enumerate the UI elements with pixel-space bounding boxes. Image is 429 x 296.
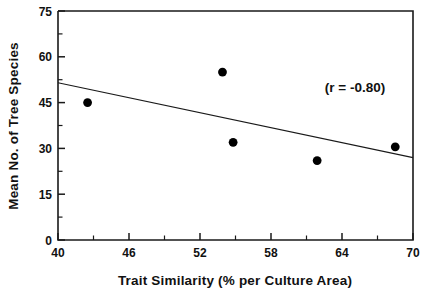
x-axis-title: Trait Similarity (% per Culture Area) <box>118 273 352 288</box>
x-tick-label-58: 58 <box>264 246 278 260</box>
y-tick-label-75: 75 <box>39 5 53 19</box>
x-tick-label-70: 70 <box>406 246 420 260</box>
x-tick-label-64: 64 <box>335 246 349 260</box>
y-tick-label-30: 30 <box>39 142 53 156</box>
data-point <box>313 156 322 165</box>
y-tick-label-15: 15 <box>39 188 53 202</box>
data-point <box>83 98 92 107</box>
data-point <box>391 142 400 151</box>
data-point <box>229 138 238 147</box>
x-tick-label-52: 52 <box>193 246 207 260</box>
scatter-plot-figure: 0 15 30 45 60 75 40 46 52 58 64 70 Trait… <box>0 0 429 296</box>
y-tick-label-45: 45 <box>39 96 53 110</box>
correlation-annotation: (r = -0.80) <box>325 80 385 95</box>
y-axis-title: Mean No. of Tree Species <box>6 42 21 210</box>
x-tick-label-46: 46 <box>122 246 136 260</box>
data-point <box>218 68 227 77</box>
x-tick-label-40: 40 <box>51 246 65 260</box>
y-tick-label-60: 60 <box>39 50 53 64</box>
